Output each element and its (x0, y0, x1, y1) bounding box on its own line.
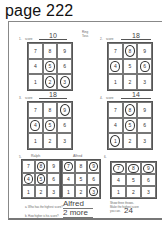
problem-2-score-label: score (106, 37, 113, 41)
grid-cell: 9 (87, 160, 100, 173)
ring-toss-label-2: Toss (82, 34, 88, 38)
grid-cell: 2 (43, 133, 58, 149)
ralph-grid: 789456123 (21, 159, 61, 199)
grid-cell: 8 (123, 102, 138, 118)
problem-1-grid: 789456123 (27, 42, 73, 91)
grid-cell: 2 (126, 186, 141, 198)
grid-cell: 9 (141, 162, 156, 174)
grid-cell: 2 (123, 74, 138, 90)
grid-cell: 6 (137, 59, 152, 75)
ralph-label: Ralph (31, 154, 40, 158)
grid-cell: 9 (137, 102, 152, 118)
problem-3-score-label: score (25, 96, 32, 100)
grid-cell: 6 (57, 59, 72, 75)
grid-cell: 5 (123, 118, 138, 134)
problem-4-number: 4. (100, 96, 103, 100)
alfred-label: Alfred (73, 154, 82, 158)
instruction-line-3: you can. (110, 209, 121, 213)
problem-3-grid: 789456123 (27, 101, 73, 150)
grid-cell: 7 (62, 160, 75, 173)
grid-cell: 2 (123, 133, 138, 149)
grid-cell: 7 (22, 160, 35, 173)
grid-cell: 9 (137, 43, 152, 59)
grid-cell: 1 (108, 74, 123, 90)
page-title: page 222 (5, 2, 73, 20)
question-a: a. Who has the highest score? (25, 205, 63, 209)
grid-cell: 8 (123, 43, 138, 59)
alfred-grid: 789456123 (61, 159, 101, 199)
problem-6-grid: 789456123 (110, 161, 157, 199)
problem-1-number: 1. (19, 37, 22, 41)
grid-cell: 3 (57, 133, 72, 149)
grid-cell: 2 (43, 74, 58, 90)
worksheet: Ring Toss 1. score 10 789456123 2. score… (8, 21, 162, 220)
grid-cell: 4 (28, 59, 43, 75)
grid-cell: 3 (141, 186, 156, 198)
grid-cell: 5 (126, 174, 141, 186)
grid-cell: 8 (43, 102, 58, 118)
grid-cell: 4 (28, 118, 43, 134)
problem-6-answer: 24 (124, 207, 133, 215)
grid-cell: 3 (87, 185, 100, 198)
grid-cell: 5 (123, 59, 138, 75)
grid-cell: 3 (57, 74, 72, 90)
grid-cell: 4 (108, 59, 123, 75)
grid-cell: 4 (22, 173, 35, 186)
problem-4-score-label: score (106, 96, 113, 100)
problem-2-score: 18 (121, 32, 151, 40)
grid-cell: 8 (126, 162, 141, 174)
grid-cell: 7 (28, 102, 43, 118)
grid-cell: 8 (35, 160, 48, 173)
grid-cell: 8 (75, 160, 88, 173)
grid-cell: 6 (87, 173, 100, 186)
grid-cell: 1 (28, 133, 43, 149)
grid-cell: 2 (75, 185, 88, 198)
grid-cell: 5 (75, 173, 88, 186)
problem-3-number: 3. (19, 96, 22, 100)
answer-b: 2 more (63, 209, 93, 218)
grid-cell: 7 (108, 102, 123, 118)
problem-2-number: 2. (100, 37, 103, 41)
grid-cell: 1 (22, 185, 35, 198)
grid-cell: 3 (137, 133, 152, 149)
grid-cell: 4 (108, 118, 123, 134)
problem-2-grid: 789456123 (107, 42, 153, 91)
grid-cell: 7 (111, 162, 126, 174)
grid-cell: 4 (111, 174, 126, 186)
grid-cell: 5 (43, 59, 58, 75)
grid-cell: 6 (57, 118, 72, 134)
grid-cell: 7 (28, 43, 43, 59)
question-b: b. How higher is his score? (25, 214, 59, 218)
grid-cell: 1 (108, 133, 123, 149)
problem-1-score: 10 (39, 32, 67, 40)
grid-cell: 9 (57, 102, 72, 118)
problem-1-score-label: score (25, 37, 32, 41)
grid-cell: 3 (47, 185, 60, 198)
problem-3-score: 18 (39, 91, 67, 99)
grid-cell: 6 (47, 173, 60, 186)
grid-cell: 1 (111, 186, 126, 198)
problem-4-grid: 789456123 (107, 101, 153, 150)
problem-4-score: 14 (121, 91, 151, 99)
grid-cell: 6 (141, 174, 156, 186)
grid-cell: 3 (137, 74, 152, 90)
grid-cell: 5 (35, 173, 48, 186)
grid-cell: 7 (108, 43, 123, 59)
grid-cell: 4 (62, 173, 75, 186)
grid-cell: 9 (47, 160, 60, 173)
grid-cell: 1 (62, 185, 75, 198)
grid-cell: 9 (57, 43, 72, 59)
grid-cell: 5 (43, 118, 58, 134)
grid-cell: 1 (28, 74, 43, 90)
grid-cell: 6 (137, 118, 152, 134)
problem-6-number: 6. (104, 155, 107, 159)
grid-cell: 2 (35, 185, 48, 198)
grid-cell: 8 (43, 43, 58, 59)
